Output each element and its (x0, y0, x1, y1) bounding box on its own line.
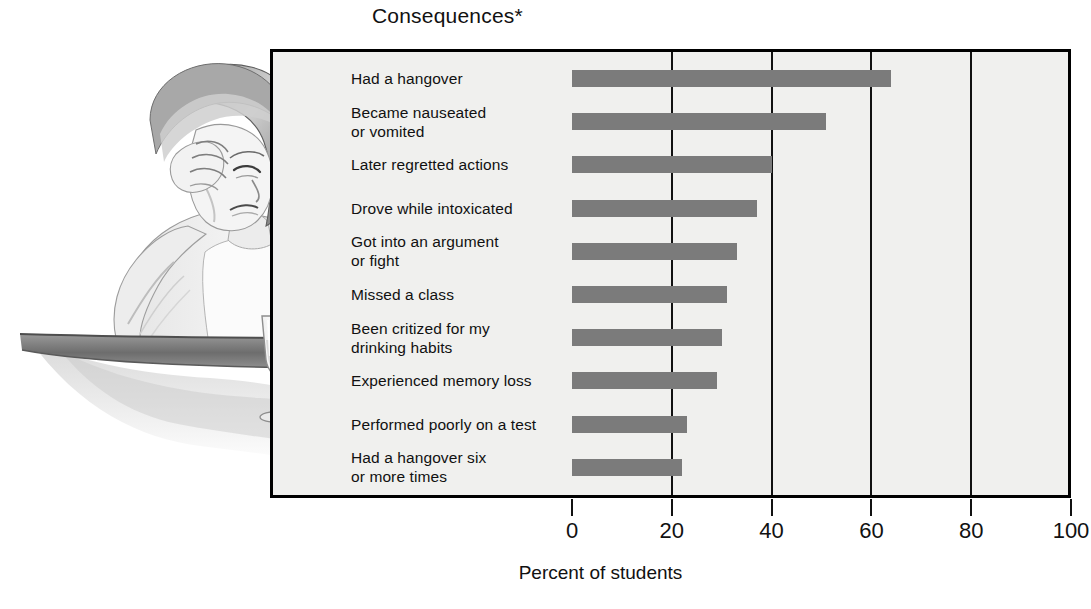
category-label: Later regretted actions (273, 155, 560, 174)
x-tick-label: 40 (759, 518, 783, 544)
gridline-80 (970, 52, 972, 495)
category-label: Got into an argument or fight (273, 232, 560, 270)
chart-title: Consequences* (372, 4, 523, 28)
bar (572, 113, 826, 130)
bar (572, 416, 687, 433)
x-axis-title: Percent of students (0, 562, 1091, 584)
bar (572, 200, 757, 217)
x-tick-60 (870, 499, 872, 516)
category-label: Missed a class (273, 285, 560, 304)
x-tick-label: 0 (566, 518, 578, 544)
figure-container: Consequences* Had a hangoverBecame nause… (0, 0, 1091, 609)
x-tick-100 (1070, 499, 1072, 516)
plot-area: Had a hangoverBecame nauseated or vomite… (270, 49, 1071, 498)
category-label: Became nauseated or vomited (273, 103, 560, 141)
bar (572, 70, 891, 87)
category-label: Had a hangover (273, 69, 560, 88)
x-tick-label: 80 (959, 518, 983, 544)
x-tick-40 (771, 499, 773, 516)
category-label: Had a hangover six or more times (273, 448, 560, 486)
bar (572, 372, 717, 389)
plot-inner: Had a hangoverBecame nauseated or vomite… (273, 52, 1068, 495)
x-tick-label: 20 (660, 518, 684, 544)
x-tick-label: 60 (859, 518, 883, 544)
gridline-60 (870, 52, 872, 495)
bar (572, 156, 772, 173)
bar (572, 286, 727, 303)
x-tick-0 (571, 499, 573, 516)
category-label: Experienced memory loss (273, 371, 560, 390)
category-label: Performed poorly on a test (273, 415, 560, 434)
bar (572, 243, 737, 260)
x-tick-label: 100 (1053, 518, 1090, 544)
bar (572, 459, 682, 476)
category-label: Drove while intoxicated (273, 199, 560, 218)
x-tick-20 (671, 499, 673, 516)
category-label: Been critized for my drinking habits (273, 319, 560, 357)
bar (572, 329, 722, 346)
x-axis-title-text: Percent of students (519, 562, 683, 583)
x-tick-80 (970, 499, 972, 516)
